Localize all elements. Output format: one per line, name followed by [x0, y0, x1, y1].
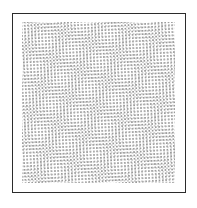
framed-panel: [12, 13, 186, 193]
halftone-dot-field: [22, 22, 175, 183]
image-canvas: Framed white panel filled with a dense f…: [0, 0, 197, 208]
dot-grid-layer-secondary: [22, 22, 175, 183]
image-description: Framed white panel filled with a dense f…: [0, 0, 1, 1]
